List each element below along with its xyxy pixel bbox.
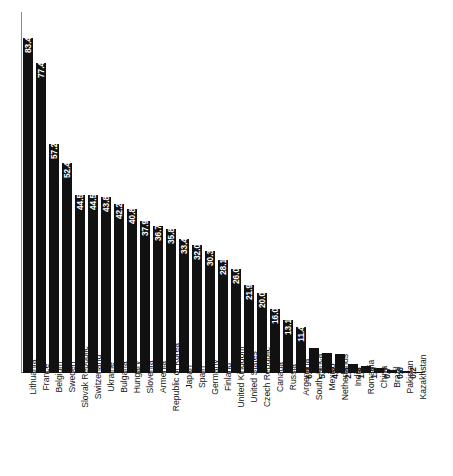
x-label-slot: Spain [190, 375, 203, 474]
bar-value-label: 13.1 [283, 320, 293, 336]
bar-slot: 42.2 [112, 12, 125, 373]
bar-slot: 26.0 [230, 12, 243, 373]
bar[interactable]: 57.2 [49, 144, 59, 373]
bar-value-label: 11.4 [296, 327, 306, 342]
bar-slot: 0.7 [386, 12, 399, 373]
bar-slot: 30.3 [203, 12, 216, 373]
bar-slot: 28.1 [216, 12, 229, 373]
bar-value-label: 44.5 [75, 194, 85, 210]
bar-value-label: 28.1 [218, 259, 228, 275]
bar[interactable]: 37.9 [140, 221, 150, 373]
x-label-slot: Sweden [60, 375, 73, 474]
x-label-slot: Bulgaria [112, 375, 125, 474]
x-label-slot: Argentina [295, 375, 308, 474]
bar-value-label: 83.4 [23, 38, 33, 54]
x-label-slot: Netherlands [334, 375, 347, 474]
x-label-slot: Ukraine [99, 375, 112, 474]
bar[interactable]: 32.0 [192, 245, 202, 373]
bar-slot: 1.8 [360, 12, 373, 373]
x-label-slot: Slovak Republic [73, 375, 86, 474]
x-label-slot: India [347, 375, 360, 474]
bar-value-label: 44.5 [88, 194, 98, 210]
x-label-slot: France [34, 375, 47, 474]
bar-chart: 83.477.457.252.444.544.543.842.240.837.9… [0, 0, 453, 476]
bar-slot: 35.8 [164, 12, 177, 373]
bar[interactable]: 28.1 [218, 260, 228, 373]
bar-slot: 32.0 [190, 12, 203, 373]
bar-value-label: 36.7 [153, 225, 163, 241]
bar-slot: 21.9 [243, 12, 256, 373]
bar-slot: 1.3 [373, 12, 386, 373]
bar-value-label: 32.0 [192, 244, 202, 260]
bar-slot: 33.4 [177, 12, 190, 373]
bar-slot: 40.8 [125, 12, 138, 373]
bar[interactable]: 43.8 [101, 197, 111, 373]
x-label-slot: Hungary [125, 375, 138, 474]
bar-slot: 20.0 [256, 12, 269, 373]
x-label-slot: South Africa [308, 375, 321, 474]
bar-value-label: 16.0 [270, 308, 280, 324]
bar[interactable]: 52.4 [62, 163, 72, 373]
x-label-slot: Switzerland [86, 375, 99, 474]
bar-slot: 5.1 [321, 12, 334, 373]
bar[interactable]: 40.8 [127, 209, 137, 373]
bar-value-label: 43.8 [101, 196, 111, 212]
x-label-slot: Czech Republic [256, 375, 269, 474]
bar-slot: 6.3 [308, 12, 321, 373]
x-label-slot: Republic of Korea [164, 375, 177, 474]
bar-value-label: 30.3 [205, 251, 215, 267]
bar-slot: 0.6 [399, 12, 412, 373]
x-axis-label: Kazakhstan [418, 355, 429, 400]
x-label-slot: United States [243, 375, 256, 474]
bar[interactable]: 42.2 [114, 204, 124, 373]
bar-value-label: 77.4 [36, 62, 46, 78]
x-label-slot: Canada [269, 375, 282, 474]
bar[interactable]: 83.4 [23, 38, 33, 373]
x-label-slot: Japan [177, 375, 190, 474]
x-label-slot: Slovenia [138, 375, 151, 474]
bar-slot: 57.2 [47, 12, 60, 373]
bar-value-label: 20.0 [257, 292, 267, 308]
x-label-slot: United Kingdom [230, 375, 243, 474]
bar-slot: 36.7 [151, 12, 164, 373]
bar-slot: 4.8 [334, 12, 347, 373]
x-label-slot: Lithuania [21, 375, 34, 474]
bar-slot: 16.0 [269, 12, 282, 373]
bar-slot: 43.8 [99, 12, 112, 373]
bar-slot: 37.9 [138, 12, 151, 373]
bar-slot: 2.2 [347, 12, 360, 373]
bar-value-label: 42.2 [114, 203, 124, 219]
x-label-slot: Brazil [386, 375, 399, 474]
x-label-slot: China [373, 375, 386, 474]
bars-container: 83.477.457.252.444.544.543.842.240.837.9… [21, 12, 425, 373]
bar-value-label: 57.2 [49, 143, 59, 159]
bar-value-label: 35.8 [166, 228, 176, 244]
x-label-slot: Pakistan [399, 375, 412, 474]
bar-slot: 11.4 [295, 12, 308, 373]
bar-value-label: 37.9 [140, 220, 150, 236]
bar-value-label: 52.4 [62, 162, 72, 178]
bar-value-label: 40.8 [127, 208, 137, 224]
x-label-slot: Russia [282, 375, 295, 474]
bar[interactable]: 30.3 [205, 251, 215, 373]
bar-slot: 83.4 [21, 12, 34, 373]
bar-slot: 44.5 [86, 12, 99, 373]
x-label-slot: Belgium [47, 375, 60, 474]
x-label-slot: Kazakhstan [412, 375, 425, 474]
bar-slot: 77.4 [34, 12, 47, 373]
bar-value-label: 21.9 [244, 284, 254, 300]
x-label-slot: Finland [216, 375, 229, 474]
bar-value-label: 26.0 [231, 268, 241, 284]
x-axis-labels: LithuaniaFranceBelgiumSwedenSlovak Repub… [21, 375, 425, 474]
bar[interactable]: 77.4 [36, 63, 46, 373]
x-label-slot: Mexico [321, 375, 334, 474]
bar-value-label: 33.4 [179, 238, 189, 254]
x-label-slot: Romania [360, 375, 373, 474]
bar-slot: 52.4 [60, 12, 73, 373]
bar-slot: 13.1 [282, 12, 295, 373]
bar[interactable]: 36.7 [153, 226, 163, 373]
x-label-slot: Armenia [151, 375, 164, 474]
bar-slot: 44.5 [73, 12, 86, 373]
x-label-slot: Germany [203, 375, 216, 474]
bar-slot: 0.2 [412, 12, 425, 373]
